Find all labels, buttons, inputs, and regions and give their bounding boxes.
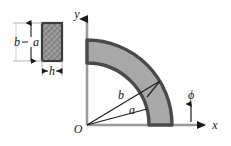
phi-label: ϕ	[188, 88, 194, 102]
cross-section-a-label: a	[33, 35, 39, 49]
phi-angle-marker: ϕ	[188, 88, 194, 122]
radius-b-label: b	[118, 88, 124, 102]
origin-label: O	[74, 122, 83, 136]
y-axis-label: y	[73, 7, 80, 21]
radius-a-label: a	[129, 103, 135, 117]
cross-section-rect-hatch-overlay	[43, 24, 61, 60]
cross-section-b-label: b	[14, 35, 20, 49]
curved-bar-figure: y x O b a ϕ	[0, 0, 231, 146]
figure-canvas: y x O b a ϕ	[0, 0, 231, 146]
radius-a-line	[87, 109, 147, 125]
radius-labels: b a	[118, 88, 135, 117]
x-axis-label: x	[211, 118, 218, 132]
cross-section-h-label: h	[49, 64, 55, 78]
cross-section-inset: b a h	[13, 23, 62, 78]
